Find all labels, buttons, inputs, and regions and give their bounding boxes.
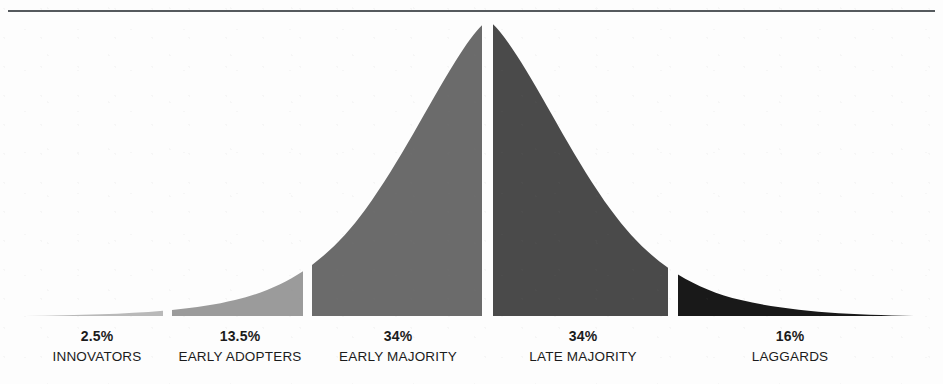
segment-name-early-adopters: EARLY ADOPTERS (178, 347, 301, 366)
segment-percent-early-adopters: 13.5% (220, 327, 261, 345)
segment-name-innovators: INNOVATORS (52, 347, 141, 366)
segment-name-early-majority: EARLY MAJORITY (339, 347, 457, 366)
segment-label-late-majority: 34% LATE MAJORITY (486, 320, 680, 366)
segment-percent-early-majority: 34% (384, 327, 413, 345)
segment-percent-innovators: 2.5% (81, 327, 114, 345)
curve-segment-early-majority (25, 20, 925, 316)
segment-name-laggards: LAGGARDS (752, 347, 829, 366)
segment-percent-laggards: 16% (776, 327, 805, 345)
segment-percent-late-majority: 34% (569, 327, 598, 345)
segment-label-early-majority: 34% EARLY MAJORITY (301, 320, 495, 366)
adoption-curve-chart: 2.5% INNOVATORS 13.5% EARLY ADOPTERS 34%… (0, 0, 943, 384)
segment-name-late-majority: LATE MAJORITY (529, 347, 636, 366)
segment-label-laggards: 16% LAGGARDS (693, 320, 887, 366)
segment-labels-row: 2.5% INNOVATORS 13.5% EARLY ADOPTERS 34%… (0, 320, 943, 384)
